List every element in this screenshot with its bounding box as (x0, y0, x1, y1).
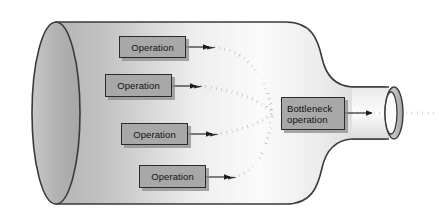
operation-label: Operation (131, 42, 174, 53)
operation-label: Operation (133, 129, 176, 140)
operation-box-4[interactable]: Operation (139, 165, 206, 188)
bottleneck-label: Bottleneck operation (287, 103, 332, 125)
operation-box-2[interactable]: Operation (105, 74, 172, 97)
bottleneck-label-line1: Bottleneck (287, 103, 332, 114)
operation-label: Operation (117, 80, 160, 91)
bottle-left-cap (32, 22, 80, 204)
diagram-canvas: Operation Operation Operation Operation … (0, 0, 445, 217)
bottle-graphic (0, 0, 445, 217)
bottleneck-operation-box[interactable]: Bottleneck operation (281, 97, 345, 130)
operation-label: Operation (151, 171, 194, 182)
operation-box-3[interactable]: Operation (121, 123, 188, 145)
bottleneck-label-line2: operation (287, 114, 332, 125)
operation-box-1[interactable]: Operation (119, 36, 186, 58)
bottle-mouth-ring (385, 87, 403, 139)
